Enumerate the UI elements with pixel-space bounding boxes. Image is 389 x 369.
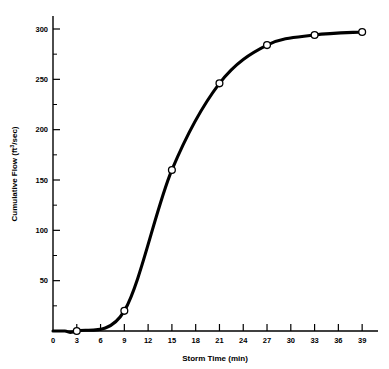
data-point-21 xyxy=(216,80,223,87)
x-tick-label-0: 0 xyxy=(51,336,55,345)
x-tick-label-9: 9 xyxy=(122,336,126,345)
x-axis-title: Storm Time (min) xyxy=(182,354,248,363)
y-tick-label-250: 250 xyxy=(35,75,48,84)
data-point-3 xyxy=(73,328,80,335)
x-tick-label-36: 36 xyxy=(334,336,342,345)
x-axis-tick-labels: 036912151821242730333639 xyxy=(51,336,366,345)
data-point-33 xyxy=(311,32,318,39)
x-tick-label-12: 12 xyxy=(144,336,152,345)
x-tick-label-6: 6 xyxy=(98,336,102,345)
y-tick-label-300: 300 xyxy=(35,25,48,34)
cumulative-flow-line-chart: 50100150200250300 0369121518212427303336… xyxy=(0,0,389,369)
x-tick-label-3: 3 xyxy=(75,336,79,345)
x-tick-label-30: 30 xyxy=(287,336,295,345)
x-tick-label-21: 21 xyxy=(215,336,223,345)
data-point-15 xyxy=(169,167,176,174)
data-curve xyxy=(53,32,362,332)
x-tick-label-33: 33 xyxy=(310,336,318,345)
x-tick-label-18: 18 xyxy=(192,336,200,345)
y-tick-label-50: 50 xyxy=(40,276,48,285)
data-point-27 xyxy=(264,42,271,49)
y-tick-label-150: 150 xyxy=(35,176,48,185)
data-point-9 xyxy=(121,307,128,314)
chart-container: 50100150200250300 0369121518212427303336… xyxy=(0,0,389,369)
y-axis-title: Cumulative Flow (ft3/sec) xyxy=(9,126,19,221)
x-tick-label-27: 27 xyxy=(263,336,271,345)
x-tick-label-15: 15 xyxy=(168,336,176,345)
data-markers xyxy=(73,29,365,335)
y-tick-label-200: 200 xyxy=(35,125,48,134)
y-axis-tick-labels: 50100150200250300 xyxy=(35,25,48,286)
y-tick-label-100: 100 xyxy=(35,226,48,235)
x-tick-label-39: 39 xyxy=(358,336,366,345)
x-axis-ticks xyxy=(77,324,362,331)
data-point-39 xyxy=(359,29,366,36)
x-tick-label-24: 24 xyxy=(239,336,248,345)
